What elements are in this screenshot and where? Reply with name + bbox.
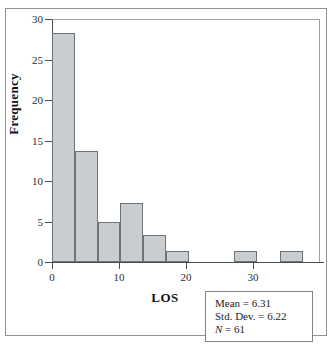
- histogram-bar: [120, 203, 143, 262]
- statistics-box: Mean = 6.31 Std. Dev. = 6.22 N = 61: [205, 291, 313, 342]
- stats-mean: Mean = 6.31: [215, 297, 312, 310]
- x-tick-0: [52, 262, 53, 269]
- x-axis-title: LOS: [120, 290, 210, 306]
- histogram-bar: [98, 222, 121, 263]
- histogram-figure: Frequency 0 5 10 15 20 25 30 0 10 20 30 …: [0, 0, 334, 345]
- y-tick-label-5: 5: [19, 217, 43, 228]
- x-tick-30: [253, 262, 254, 269]
- histogram-bar: [52, 33, 75, 262]
- y-tick-label-10: 10: [19, 176, 43, 187]
- y-tick-10: [45, 181, 52, 182]
- histogram-bar: [143, 235, 166, 262]
- x-tick-label-30: 30: [238, 272, 268, 283]
- stats-n: N = 61: [215, 323, 312, 336]
- y-tick-label-20: 20: [19, 95, 43, 106]
- y-tick-20: [45, 100, 52, 101]
- stats-n-value: = 61: [222, 323, 245, 335]
- histogram-bar: [234, 251, 257, 262]
- x-tick-label-10: 10: [104, 272, 134, 283]
- y-tick-25: [45, 60, 52, 61]
- y-tick-label-15: 15: [19, 136, 43, 147]
- y-tick-label-30: 30: [19, 14, 43, 25]
- stats-std-dev: Std. Dev. = 6.22: [215, 310, 312, 323]
- x-axis-spine: [45, 262, 324, 263]
- plot-right-rule: [319, 19, 320, 262]
- y-tick-5: [45, 222, 52, 223]
- y-tick-label-25: 25: [19, 55, 43, 66]
- x-tick-10: [119, 262, 120, 269]
- x-tick-label-20: 20: [171, 272, 201, 283]
- x-tick-label-0: 0: [37, 272, 67, 283]
- plot-top-rule: [52, 19, 320, 20]
- histogram-bar: [280, 251, 303, 262]
- histogram-bar: [75, 151, 98, 262]
- y-tick-label-0: 0: [19, 257, 43, 268]
- x-tick-20: [186, 262, 187, 269]
- y-tick-30: [45, 19, 52, 20]
- histogram-bar: [166, 251, 189, 262]
- plot-area: [52, 19, 320, 262]
- y-tick-15: [45, 141, 52, 142]
